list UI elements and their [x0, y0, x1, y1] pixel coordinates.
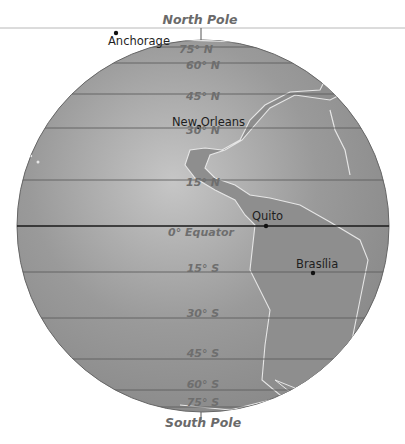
- latitude-label: 45° N: [186, 90, 220, 103]
- city-label-quito: Quito: [252, 209, 283, 223]
- latitude-label: 15° N: [186, 176, 220, 189]
- city-label-new-orleans: New Orleans: [172, 115, 245, 129]
- latitude-label: 45° S: [187, 347, 220, 360]
- latitude-label: 60° S: [187, 378, 220, 391]
- latitude-label: 75° S: [187, 396, 220, 409]
- north-pole-label: North Pole: [163, 12, 238, 27]
- city-label-brasilia: Brasília: [296, 257, 338, 271]
- city-dot-brasilia: [311, 271, 315, 275]
- city-label-anchorage: Anchorage: [108, 34, 170, 48]
- latitude-label: 30° S: [187, 307, 220, 320]
- equator-label: 0° Equator: [168, 226, 234, 239]
- latitude-label: 15° S: [187, 262, 220, 275]
- south-pole-label: South Pole: [165, 415, 241, 430]
- latitude-label: 60° N: [186, 59, 220, 72]
- latitude-label: 75° N: [179, 43, 213, 56]
- city-dot-quito: [264, 224, 268, 228]
